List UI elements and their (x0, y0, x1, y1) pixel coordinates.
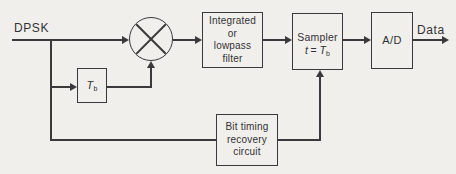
data-output-line (413, 39, 442, 41)
multiplier-mixer-icon (129, 17, 173, 61)
input-signal-line (12, 39, 122, 41)
filter-output-line (263, 39, 285, 41)
data-output-label: Data (417, 23, 445, 37)
filter-label-line: filter (222, 53, 242, 66)
bit-timing-to-sampler-line (319, 77, 321, 141)
filter-label-line: lowpass (214, 40, 252, 53)
integrate-lowpass-filter-block: Integrated or lowpass filter (202, 12, 263, 68)
bit-timing-label-line: Bit timing (225, 121, 268, 134)
bit-timing-input-line (50, 139, 216, 141)
arrowhead-into-adc-icon (364, 36, 371, 44)
arrowhead-into-sampler-icon (285, 36, 292, 44)
sampler-block: Sampler t=Tb (292, 13, 343, 70)
arrowhead-into-mixer-icon (122, 36, 129, 44)
arrowhead-up-into-mixer-icon (147, 61, 155, 68)
delay-tb-block: Tb (77, 68, 107, 103)
bit-timing-label-line: circuit (233, 146, 261, 159)
sampler-output-line (343, 39, 364, 41)
dpsk-input-label: DPSK (14, 21, 49, 35)
arrowhead-up-into-sampler-icon (316, 70, 324, 77)
delay-tb-label: Tb (86, 79, 97, 92)
input-branch-line (50, 39, 52, 141)
delay-to-mixer-line (150, 68, 152, 88)
arrowhead-into-delay-icon (70, 83, 77, 91)
adc-label: A/D (382, 34, 402, 47)
bit-timing-recovery-block: Bit timing recovery circuit (216, 114, 278, 166)
mixer-output-line (173, 39, 195, 41)
bit-timing-label-line: recovery (227, 134, 267, 147)
bit-timing-output-line (278, 139, 321, 141)
sampler-timing-label: t=Tb (305, 44, 330, 57)
delay-output-line (107, 86, 152, 88)
sampler-label: Sampler (297, 31, 338, 44)
filter-label-line: or (228, 28, 237, 41)
arrowhead-into-filter-icon (195, 36, 202, 44)
delay-input-line (50, 86, 70, 88)
ad-converter-block: A/D (371, 12, 413, 69)
filter-label-line: Integrated (209, 15, 256, 28)
dpsk-receiver-diagram: DPSK Tb Integrated or lowpass filter Sam… (0, 0, 456, 174)
